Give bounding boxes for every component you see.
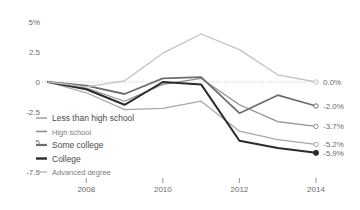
series-end-label: -3.7% xyxy=(323,122,344,131)
series-end-markers xyxy=(313,80,318,156)
legend-item-label[interactable]: Advanced degree xyxy=(52,168,111,177)
series-end-marker xyxy=(314,142,318,146)
series-line xyxy=(48,34,316,87)
y-tick-label: 0 xyxy=(36,78,41,87)
series-end-label: 0.0% xyxy=(323,78,341,87)
chart-legend: Less than high schoolHigh schoolSome col… xyxy=(36,113,134,177)
x-tick-label: 2010 xyxy=(154,185,172,194)
series-end-label: -2.0% xyxy=(323,102,344,111)
series-end-marker xyxy=(313,150,318,155)
series-end-label: -5.9% xyxy=(323,149,344,158)
y-tick-label: 5% xyxy=(28,18,40,27)
series-end-marker xyxy=(314,124,318,128)
line-chart: 5%2.50-2.55-7.5 2008201020122014 -5.2%-3… xyxy=(0,0,360,210)
series-end-marker xyxy=(314,104,318,108)
y-tick-label: -2.5 xyxy=(26,108,40,117)
legend-item-label[interactable]: Less than high school xyxy=(52,113,134,123)
x-tick-label: 2014 xyxy=(307,185,325,194)
chart-canvas: 5%2.50-2.55-7.5 2008201020122014 -5.2%-3… xyxy=(0,0,360,210)
legend-item-label[interactable]: High school xyxy=(52,128,92,137)
series-end-marker xyxy=(314,80,318,84)
x-tick-label: 2012 xyxy=(231,185,249,194)
series-end-labels: -5.2%-3.7%-2.0%-5.9%0.0% xyxy=(323,78,344,158)
legend-item-label[interactable]: Some college xyxy=(52,140,104,150)
x-axis-tick-labels: 2008201020122014 xyxy=(77,178,325,194)
legend-item-label[interactable]: College xyxy=(52,154,81,164)
y-tick-label: 2.5 xyxy=(29,48,41,57)
x-tick-label: 2008 xyxy=(77,185,95,194)
y-axis-tick-labels: 5%2.50-2.55-7.5 xyxy=(26,18,40,177)
